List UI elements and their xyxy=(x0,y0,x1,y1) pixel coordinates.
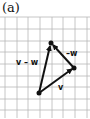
label-neg-w: –w xyxy=(66,49,78,58)
point-top xyxy=(49,41,54,46)
point-bottom xyxy=(37,91,42,96)
label-v-minus-w: v – w xyxy=(16,58,39,67)
label-v: v xyxy=(58,83,64,92)
vector-diagram: v – w –w v xyxy=(0,0,90,119)
point-right xyxy=(72,66,77,71)
